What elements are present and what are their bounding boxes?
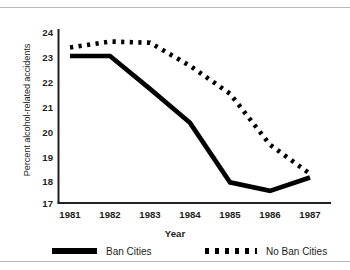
x-tick-1985: 1985 xyxy=(210,209,250,220)
y-tick-18: 18 xyxy=(31,176,53,187)
solid-line-swatch-icon xyxy=(52,248,97,254)
legend-label-no-ban-cities: No Ban Cities xyxy=(266,246,327,257)
x-tick-1983: 1983 xyxy=(130,209,170,220)
y-tick-23: 23 xyxy=(31,52,53,63)
legend-item-ban-cities: Ban Cities xyxy=(52,243,152,259)
legend-item-no-ban-cities: No Ban Cities xyxy=(205,243,327,259)
series-ban-cities xyxy=(70,56,310,191)
x-tick-1986: 1986 xyxy=(250,209,290,220)
y-tick-17: 17 xyxy=(31,198,53,209)
dotted-line-swatch-icon xyxy=(205,248,257,254)
y-tick-21: 21 xyxy=(31,102,53,113)
y-tick-19: 19 xyxy=(31,152,53,163)
x-tick-1984: 1984 xyxy=(170,209,210,220)
series-no-ban-cities xyxy=(70,42,310,174)
y-tick-24: 24 xyxy=(31,27,53,38)
legend-label-ban-cities: Ban Cities xyxy=(106,246,152,257)
x-tick-1982: 1982 xyxy=(90,209,130,220)
figure-container: Percent alcohol-related accidents 24 23 … xyxy=(0,0,350,270)
x-axis-label: Year xyxy=(0,228,350,239)
y-tick-22: 22 xyxy=(31,77,53,88)
x-tick-1987: 1987 xyxy=(290,209,330,220)
x-tick-1981: 1981 xyxy=(50,209,90,220)
y-tick-20: 20 xyxy=(31,127,53,138)
chart-legend: Ban Cities No Ban Cities xyxy=(0,243,350,259)
